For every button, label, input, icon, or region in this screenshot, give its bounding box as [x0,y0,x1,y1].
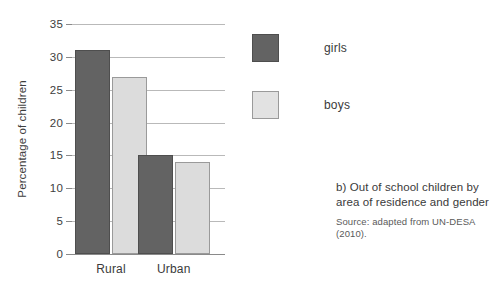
legend-swatch-girls [252,34,279,62]
legend-item-girls: girls [252,34,347,62]
caption-block: b) Out of school children by area of res… [336,180,492,240]
caption-source: Source: adapted from UN-DESA (2010). [336,216,492,240]
y-axis-tick [66,123,72,124]
legend-label-girls: girls [324,41,347,55]
gridline [72,24,225,25]
y-axis-tick [66,155,72,156]
y-axis-tick-label: 25 [50,84,63,96]
y-axis-tick-label: 15 [50,149,63,161]
x-axis-line [72,254,225,255]
bar-rural-girls [75,50,110,254]
y-axis-tick [66,24,72,25]
y-axis-tick-label: 5 [56,215,63,227]
bar-chart-figure: Percentage of children 05101520253035 Ru… [0,0,502,287]
y-axis-tick [66,221,72,222]
x-axis-label-urban: Urban [134,262,214,276]
y-axis-tick-label: 10 [50,182,63,194]
y-axis-tick [66,188,72,189]
y-axis-tick [66,57,72,58]
y-axis-tick-label: 0 [56,248,63,260]
y-axis-tick-label: 35 [50,18,63,30]
legend-item-boys: boys [252,91,350,119]
y-axis-tick-label: 20 [50,117,63,129]
legend-label-boys: boys [324,98,350,112]
y-axis-title: Percentage of children [16,24,32,254]
legend-swatch-boys [252,91,279,119]
caption-title: b) Out of school children by area of res… [336,180,492,210]
y-axis-tick-label: 30 [50,51,63,63]
y-axis-tick [66,90,72,91]
bar-urban-boys [175,162,210,254]
bar-urban-girls [138,155,173,254]
y-axis-tick [66,254,72,255]
